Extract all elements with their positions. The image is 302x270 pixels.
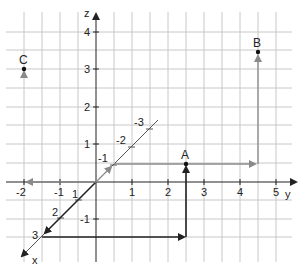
z-tick-3: 3: [84, 63, 90, 75]
z-tick-4: 4: [84, 26, 90, 38]
point-a: [184, 162, 188, 166]
x-tick-3: 3: [32, 229, 38, 241]
axes: [6, 14, 296, 262]
x-tick-neg1: -1: [98, 152, 108, 164]
y-axis-label: y: [285, 188, 291, 200]
x-tick-neg3: -3: [134, 116, 144, 128]
z-axis-label: z: [84, 7, 90, 19]
y-tick-1: 1: [129, 186, 135, 198]
y-tick-2: 2: [165, 186, 171, 198]
z-tick-1: 1: [84, 138, 90, 150]
point-c: [22, 67, 26, 71]
x-tick-2: 2: [52, 206, 58, 218]
z-tick-neg1: -1: [80, 213, 90, 225]
z-tick-2: 2: [84, 101, 90, 113]
y-tick-5: 5: [273, 186, 279, 198]
x-axis-label: x: [32, 254, 38, 266]
x-tick-1: 1: [72, 188, 78, 200]
point-c-label: C: [19, 53, 28, 67]
coordinate-diagram: z y x 4 3 2 1 -1 -2 -1 1 2 3 4 5 -1 -2 -…: [0, 0, 302, 270]
x-tick-neg2: -2: [116, 134, 126, 146]
point-b-label: B: [253, 36, 261, 50]
point-b: [256, 50, 260, 54]
y-tick-neg1: -1: [54, 186, 64, 198]
y-tick-3: 3: [201, 186, 207, 198]
y-tick-4: 4: [237, 186, 243, 198]
grid: [6, 12, 292, 262]
point-a-label: A: [181, 148, 189, 162]
y-tick-neg2: -2: [16, 186, 26, 198]
